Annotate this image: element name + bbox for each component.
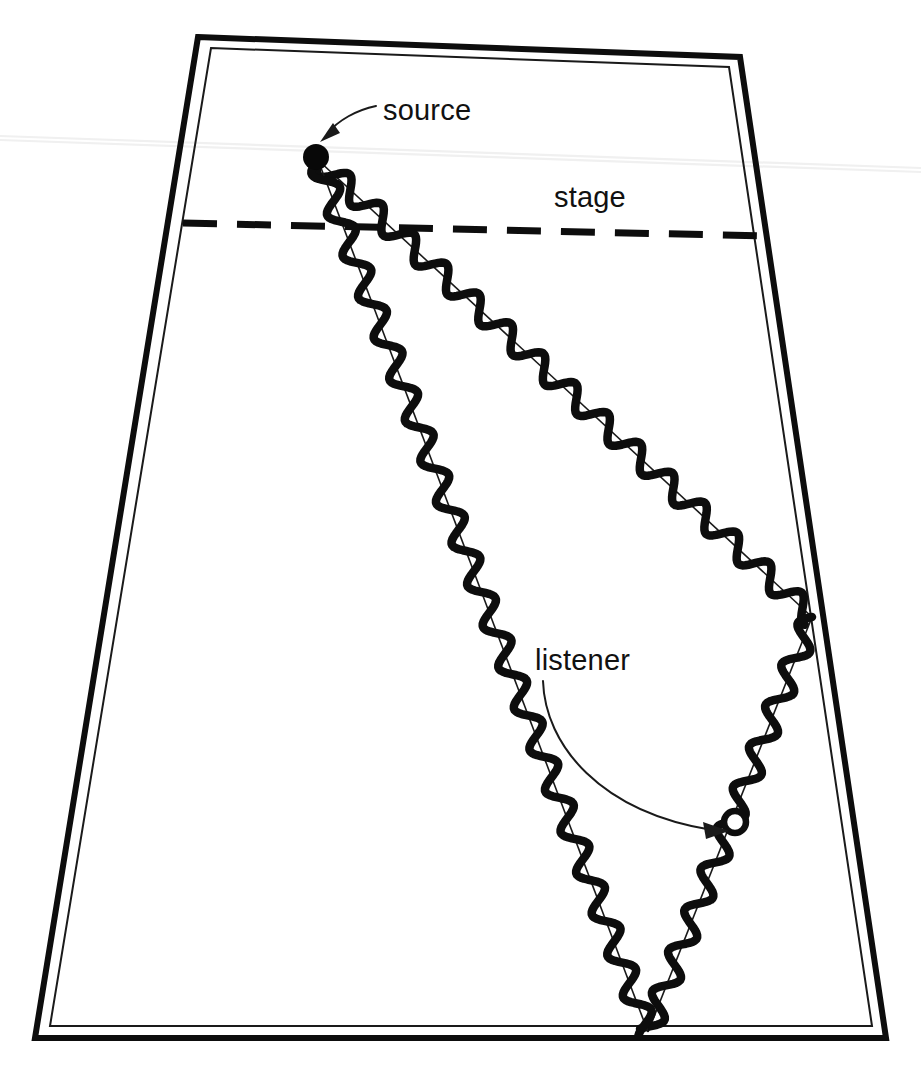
- stage-boundary-line: [183, 223, 766, 236]
- sound-rays: [311, 160, 812, 1036]
- source-marker: [303, 144, 329, 170]
- listener-marker: [724, 811, 746, 833]
- ray-a-right-wall: [317, 160, 805, 625]
- scan-artifact-line-2: [0, 140, 921, 172]
- figure-root: sourcestagelistener: [0, 0, 921, 1080]
- listener-label: listener: [535, 644, 630, 676]
- auditorium-diagram: sourcestagelistener: [0, 0, 921, 1080]
- scan-artifact-line: [0, 136, 921, 168]
- source-arrow-icon: [320, 123, 340, 142]
- stage-label: stage: [554, 181, 626, 213]
- source-label: source: [383, 94, 471, 126]
- listener-leader-line: [543, 681, 712, 830]
